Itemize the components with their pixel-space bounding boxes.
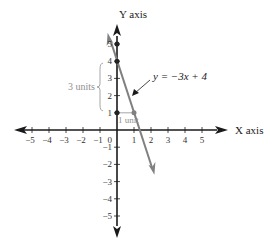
line-lower-arrow-icon bbox=[148, 162, 155, 175]
y-tick-label: 1 bbox=[108, 108, 113, 118]
y-tick-label: 2 bbox=[108, 91, 113, 101]
y-tick-label: 3 bbox=[108, 73, 113, 83]
x-tick-label: 3 bbox=[166, 135, 171, 145]
run-label: 1 unit bbox=[118, 115, 139, 125]
x-tick-label: 2 bbox=[149, 135, 154, 145]
x-tick-label: −1 bbox=[93, 135, 103, 145]
coordinate-plane-chart: −5−4−3−2−112345−5−4−3−2−11234503 units1 … bbox=[0, 0, 273, 242]
y-tick-label: −4 bbox=[102, 194, 112, 204]
y-axis-up-arrow-icon bbox=[113, 24, 121, 36]
data-point bbox=[115, 42, 120, 47]
y-tick-label: −5 bbox=[102, 211, 112, 221]
data-point bbox=[115, 59, 120, 64]
x-axis-title: X axis bbox=[235, 124, 263, 136]
y-tick-label: −3 bbox=[102, 177, 112, 187]
axes bbox=[14, 24, 228, 238]
rise-brace bbox=[97, 63, 103, 111]
x-tick-label: −4 bbox=[42, 135, 52, 145]
y-axis-title: Y axis bbox=[119, 8, 147, 20]
x-tick-label: −5 bbox=[25, 135, 35, 145]
y-axis-down-arrow-icon bbox=[113, 226, 121, 238]
x-tick-label: −3 bbox=[59, 135, 69, 145]
x-tick-label: 1 bbox=[132, 135, 137, 145]
cropped-caption bbox=[0, 0, 273, 3]
annotations bbox=[97, 63, 150, 113]
y-tick-label: 5 bbox=[108, 39, 113, 49]
y-tick-label: −2 bbox=[102, 159, 112, 169]
equation-label: y = −3x + 4 bbox=[152, 70, 208, 82]
equation-pointer bbox=[135, 80, 150, 93]
y-tick-label: 4 bbox=[108, 56, 113, 66]
x-tick-label: 5 bbox=[200, 135, 205, 145]
rise-label: 3 units bbox=[68, 81, 95, 92]
line-series bbox=[107, 33, 156, 175]
text-labels: −5−4−3−2−112345−5−4−3−2−11234503 units1 … bbox=[25, 8, 263, 221]
origin-label: 0 bbox=[108, 135, 113, 145]
x-tick-label: −2 bbox=[76, 135, 86, 145]
x-tick-label: 4 bbox=[183, 135, 188, 145]
